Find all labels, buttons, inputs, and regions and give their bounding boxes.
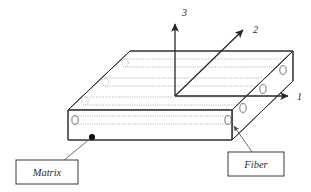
matrix-pointer-dot <box>89 134 95 140</box>
axis-2-label: 2 <box>253 24 258 35</box>
figure-canvas: 3 2 1 Matrix Fiber <box>0 0 311 192</box>
matrix-callout[interactable]: Matrix <box>16 134 95 184</box>
axis-1-label: 1 <box>297 91 302 102</box>
axis-3-label: 3 <box>181 7 187 18</box>
matrix-callout-label: Matrix <box>32 167 62 178</box>
fiber-callout-label: Fiber <box>243 159 268 170</box>
matrix-leader-line <box>62 137 92 162</box>
composite-lamina-diagram: 3 2 1 Matrix Fiber <box>0 0 311 192</box>
